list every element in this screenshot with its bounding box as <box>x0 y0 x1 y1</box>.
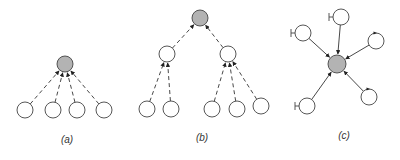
node <box>139 101 155 117</box>
edge-b2-to-b0 <box>206 25 224 48</box>
center-node <box>192 10 208 26</box>
panel-b-label: (b) <box>196 132 208 143</box>
edge-b3-to-b1 <box>150 62 164 101</box>
edge-a3-to-a0 <box>67 73 75 103</box>
panel-b <box>139 10 269 117</box>
edge-c3-to-c0 <box>346 45 369 59</box>
node <box>229 101 245 117</box>
node <box>96 102 112 118</box>
edge-c5-to-c0 <box>344 71 363 91</box>
node <box>368 33 384 49</box>
node <box>361 89 377 105</box>
panel-c <box>291 9 384 114</box>
node <box>204 101 220 117</box>
edge-c2-to-c0 <box>309 38 330 57</box>
node <box>299 98 315 114</box>
panel-a <box>17 56 112 118</box>
panel-c-label: (c) <box>338 130 350 141</box>
node <box>333 9 349 25</box>
node <box>163 101 179 117</box>
edge-b1-to-b0 <box>172 25 194 48</box>
edge-c4-to-c0 <box>312 72 332 99</box>
node <box>253 98 269 114</box>
node <box>17 102 33 118</box>
center-node <box>328 55 346 73</box>
node <box>45 102 61 118</box>
edge-b7-to-b2 <box>233 62 257 100</box>
edge-a2-to-a0 <box>55 73 63 103</box>
node <box>69 102 85 118</box>
node <box>295 25 311 41</box>
edge-a4-to-a0 <box>71 71 99 104</box>
node <box>220 46 236 62</box>
edge-c1-to-c0 <box>338 25 340 54</box>
edge-b5-to-b2 <box>214 63 225 102</box>
node <box>159 46 175 62</box>
edge-b4-to-b1 <box>168 63 171 101</box>
diagram-canvas: (a) (b) (c) <box>0 0 400 160</box>
center-node <box>57 56 73 72</box>
edge-a1-to-a0 <box>30 71 59 104</box>
panel-a-label: (a) <box>61 134 73 145</box>
edge-b6-to-b2 <box>229 63 235 101</box>
